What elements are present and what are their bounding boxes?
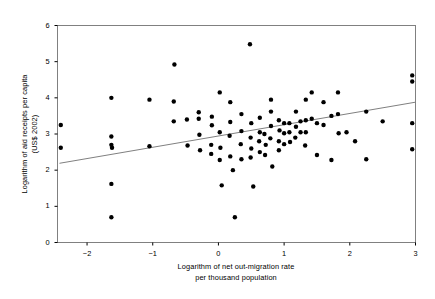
data-point (197, 110, 201, 114)
data-point (249, 146, 253, 150)
data-point (231, 168, 235, 172)
data-point (277, 148, 281, 152)
data-point (109, 134, 113, 138)
y-tick-label: 6 (24, 21, 50, 30)
data-point (315, 153, 319, 157)
data-point (258, 116, 262, 120)
data-point (304, 97, 308, 101)
x-tick-label: 3 (396, 249, 435, 258)
data-point (248, 155, 252, 159)
data-point (198, 148, 202, 152)
data-point (110, 146, 114, 150)
data-point (228, 100, 232, 104)
data-point (321, 123, 325, 127)
data-point (262, 132, 266, 136)
data-point (329, 158, 333, 162)
data-point (239, 157, 243, 161)
data-point (303, 143, 307, 147)
data-point (282, 121, 286, 125)
data-point (218, 130, 222, 134)
data-point (315, 121, 319, 125)
data-point (210, 123, 214, 127)
axis-ticks (55, 26, 416, 246)
data-point (248, 135, 252, 139)
data-point (59, 123, 63, 127)
data-point (353, 139, 357, 143)
data-point (269, 109, 273, 113)
data-point (293, 135, 297, 139)
data-point (59, 146, 63, 150)
data-point (185, 143, 189, 147)
data-point (310, 90, 314, 94)
data-point (269, 97, 273, 101)
trendline-path (59, 102, 415, 163)
data-point (185, 117, 189, 121)
data-point (410, 147, 414, 151)
data-point (268, 136, 272, 140)
data-point (218, 146, 222, 150)
data-point (228, 154, 232, 158)
data-point (294, 125, 298, 129)
data-point (228, 120, 232, 124)
x-tick-label: 2 (330, 249, 370, 258)
data-point (336, 131, 340, 135)
data-point (248, 42, 252, 46)
data-point (239, 142, 243, 146)
data-point (109, 96, 113, 100)
data-point (304, 118, 308, 122)
data-point (264, 143, 268, 147)
data-point (147, 144, 151, 148)
data-point (269, 124, 273, 128)
data-point (410, 79, 414, 83)
data-point (329, 114, 333, 118)
data-point (364, 109, 368, 113)
data-point (172, 99, 176, 103)
data-point (147, 97, 151, 101)
x-tick-label: −1 (133, 249, 173, 258)
data-point (209, 143, 213, 147)
data-point (364, 157, 368, 161)
data-point (287, 121, 291, 125)
data-point (321, 100, 325, 104)
data-point (298, 130, 302, 134)
data-point (218, 90, 222, 94)
data-point (218, 158, 222, 162)
data-point (239, 129, 243, 133)
data-point (233, 215, 237, 219)
data-point (282, 131, 286, 135)
data-point (249, 121, 253, 125)
data-point (197, 117, 201, 121)
data-point (227, 134, 231, 138)
data-point (251, 184, 255, 188)
data-point (220, 183, 224, 187)
data-point (277, 128, 281, 132)
x-axis-title-line1: Logarithm of net out-migration rate (57, 262, 415, 273)
data-point (109, 182, 113, 186)
data-point (287, 130, 291, 134)
y-tick-label: 0 (24, 238, 50, 247)
data-point (336, 112, 340, 116)
data-point (336, 90, 340, 94)
x-tick-label: 0 (198, 249, 238, 258)
x-tick-label: −2 (67, 249, 107, 258)
data-point (298, 119, 302, 123)
x-axis-title: Logarithm of net out-migration rate per … (57, 262, 415, 283)
x-tick-label: 1 (264, 249, 304, 258)
data-points (59, 42, 415, 219)
y-tick-label: 1 (24, 201, 50, 210)
data-point (344, 130, 348, 134)
data-point (304, 130, 308, 134)
data-point (410, 121, 414, 125)
data-point (258, 150, 262, 154)
data-point (310, 117, 314, 121)
data-point (288, 140, 292, 144)
plot-border (58, 26, 416, 243)
x-axis-title-line2: per thousand population (57, 273, 415, 284)
data-point (172, 119, 176, 123)
y-tick-label: 4 (24, 93, 50, 102)
data-point (277, 139, 281, 143)
data-point (294, 109, 298, 113)
data-point (257, 139, 261, 143)
data-point (270, 164, 274, 168)
data-point (197, 133, 201, 137)
